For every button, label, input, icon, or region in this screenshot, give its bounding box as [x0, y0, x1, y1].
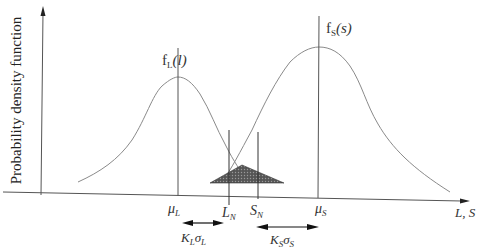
- nominal-load-label: LN: [222, 205, 236, 222]
- marker-main: S: [250, 203, 257, 218]
- marker-main: L: [222, 205, 230, 220]
- marker-sub: N: [257, 210, 263, 220]
- y-axis-label: Probability density function: [2, 0, 32, 200]
- x-axis-arrow-icon: [460, 199, 470, 204]
- load-curve-label: fL(l): [162, 52, 187, 70]
- mu-sub: S: [322, 208, 327, 218]
- span-k: K: [181, 230, 190, 245]
- strength-span-label: KSσS: [270, 232, 294, 249]
- span-sub2: S: [290, 239, 295, 249]
- nominal-strength-label: SN: [250, 203, 263, 220]
- load-span-arrow: [182, 220, 224, 226]
- y-axis-arrow-icon: [41, 6, 46, 16]
- interference-region: [210, 165, 284, 183]
- strength-curve-label: fS(s): [326, 20, 352, 38]
- x-axis-label: L, S: [455, 205, 475, 221]
- mu-symbol: μ: [315, 201, 322, 216]
- y-axis-label-text: Probability density function: [9, 16, 26, 183]
- strength-density-curve: [222, 47, 450, 192]
- strength-label-arg: (s): [336, 20, 352, 36]
- y-axis: [41, 6, 46, 195]
- span-sub2: L: [201, 237, 206, 247]
- strength-mean-line: [318, 16, 319, 198]
- load-label-arg: (l): [173, 52, 187, 68]
- strength-mean-label: μS: [315, 201, 327, 218]
- mu-symbol: μ: [168, 201, 175, 216]
- load-span-label: KLσL: [181, 230, 206, 247]
- diagram-canvas: [0, 0, 485, 250]
- strength-span-arrow: [256, 224, 319, 230]
- mu-sub: L: [175, 208, 180, 218]
- stress-strength-interference-diagram: Probability density function fL(l) fS(s)…: [0, 0, 485, 250]
- x-axis: [3, 192, 470, 204]
- load-density-curve: [78, 77, 248, 182]
- load-mean-label: μL: [168, 201, 180, 218]
- marker-sub: N: [230, 212, 236, 222]
- span-k: K: [270, 232, 279, 247]
